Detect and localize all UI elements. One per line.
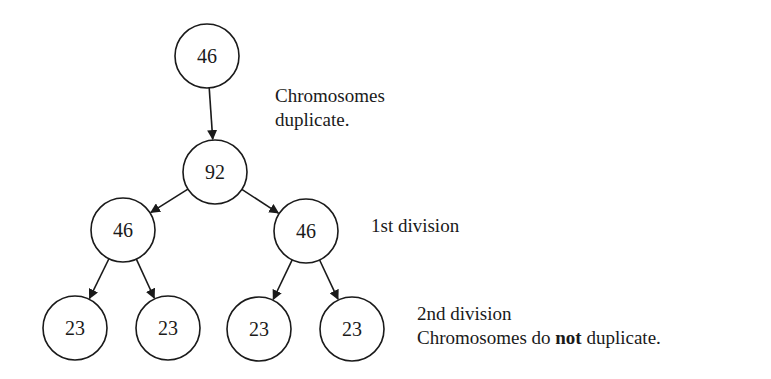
arrow-duplicated-to-div1-right — [242, 189, 278, 213]
chromosome-count: 23 — [158, 317, 178, 339]
node-div2-c: 23 — [227, 297, 291, 361]
annotation-first-division: 1st division — [371, 214, 459, 238]
chromosome-count: 46 — [197, 45, 217, 67]
nodes-group: 4692464623232323 — [43, 24, 384, 361]
arrow-div1-left-to-div2-a — [90, 259, 109, 299]
annotation-chromosomes-duplicate: Chromosomes duplicate. — [275, 84, 385, 132]
node-div2-a: 23 — [43, 296, 107, 360]
annotation-line: Chromosomes do not duplicate. — [417, 326, 661, 350]
chromosome-count: 23 — [249, 318, 269, 340]
arrow-icon — [242, 189, 278, 213]
arrow-icon — [90, 259, 109, 299]
node-root: 46 — [175, 24, 239, 88]
node-duplicated: 92 — [183, 140, 247, 204]
arrow-root-to-duplicated — [209, 88, 213, 139]
arrow-div1-right-to-div2-c — [273, 260, 292, 299]
arrow-div1-left-to-div2-b — [136, 259, 154, 298]
arrow-div1-right-to-div2-d — [320, 260, 338, 299]
annotation-emphasis: not — [555, 327, 581, 348]
chromosome-count: 46 — [296, 220, 316, 242]
annotation-line: 1st division — [371, 215, 459, 236]
annotation-line: Chromosomes — [275, 84, 385, 108]
arrow-icon — [151, 189, 188, 212]
arrow-icon — [273, 260, 292, 299]
arrow-icon — [136, 259, 154, 298]
node-div1-left: 46 — [91, 198, 155, 262]
chromosome-count: 92 — [205, 161, 225, 183]
arrow-icon — [209, 88, 213, 139]
chromosome-count: 46 — [113, 219, 133, 241]
arrow-icon — [320, 260, 338, 299]
annotation-line: duplicate. — [275, 108, 385, 132]
chromosome-count: 23 — [342, 318, 362, 340]
node-div2-b: 23 — [136, 296, 200, 360]
chromosome-count: 23 — [65, 317, 85, 339]
node-div1-right: 46 — [274, 199, 338, 263]
annotation-line: 2nd division — [417, 302, 661, 326]
arrow-duplicated-to-div1-left — [151, 189, 188, 212]
annotation-second-division: 2nd division Chromosomes do not duplicat… — [417, 302, 661, 350]
node-div2-d: 23 — [320, 297, 384, 361]
annotation-text: duplicate. — [582, 327, 661, 348]
annotation-text: Chromosomes do — [417, 327, 555, 348]
